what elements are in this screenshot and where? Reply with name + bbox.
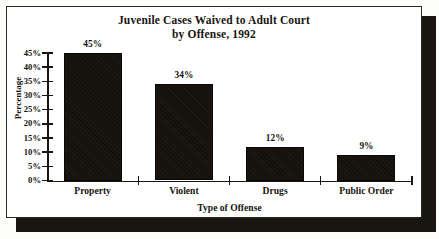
y-axis-tick-label: 45% — [10, 48, 41, 58]
x-axis-label-violent: Violent — [134, 185, 234, 196]
y-axis-tick-mark — [42, 95, 53, 96]
bar-public-order — [337, 155, 395, 181]
y-axis-tick-mark — [42, 151, 53, 152]
x-axis-tick-mark — [320, 176, 321, 185]
y-axis-tick-label: 10% — [10, 147, 41, 157]
bar-chart: Juvenile Cases Waived to Adult Court by … — [7, 7, 421, 217]
x-axis-label-property: Property — [43, 185, 143, 196]
y-axis-tick-mark — [42, 166, 53, 167]
bar-value-label: 34% — [149, 70, 219, 80]
bar-violent — [155, 84, 213, 180]
chart-figure-frame: Juvenile Cases Waived to Adult Court by … — [6, 6, 422, 218]
x-axis-tick-mark — [138, 176, 139, 185]
bar-value-label: 9% — [331, 141, 401, 151]
y-axis-tick-mark — [42, 180, 53, 181]
x-axis-title: Type of Offense — [47, 202, 412, 213]
y-axis-tick-mark — [42, 66, 53, 67]
scanned-page: Juvenile Cases Waived to Adult Court by … — [0, 0, 439, 239]
y-axis-tick-label: 5% — [10, 161, 41, 171]
y-axis-tick-label: 15% — [10, 133, 41, 143]
y-axis-tick-label: 0% — [10, 175, 41, 185]
bar-drugs — [246, 147, 304, 181]
y-axis-tick-mark — [42, 52, 53, 53]
y-axis-tick-mark — [42, 137, 53, 138]
x-axis-tick-mark — [229, 176, 230, 185]
x-axis-label-public-order: Public Order — [316, 185, 416, 196]
y-axis-tick-mark — [42, 109, 53, 110]
y-axis-tick-mark — [42, 123, 53, 124]
y-axis-tick-mark — [42, 81, 53, 82]
y-axis-line — [47, 52, 49, 182]
x-axis-tick-mark — [411, 176, 412, 185]
plot-area: 0%5%10%15%20%25%30%35%40%45% 45%34%12%9%… — [7, 7, 423, 219]
bar-property — [64, 53, 122, 181]
y-axis-title: Percentage — [13, 63, 23, 133]
bar-value-label: 45% — [58, 39, 128, 49]
x-axis-label-drugs: Drugs — [225, 185, 325, 196]
bar-value-label: 12% — [240, 133, 310, 143]
